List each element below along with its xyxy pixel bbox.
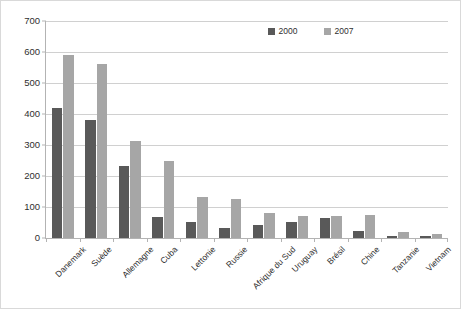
- bar-group: [247, 21, 281, 238]
- plot-area: 0100200300400500600700: [45, 21, 448, 239]
- y-tick-label: 200: [24, 171, 40, 181]
- x-axis-label: Chine: [359, 245, 381, 267]
- x-axis-label: Brésil: [326, 245, 347, 266]
- x-label-cell: Russie: [213, 241, 247, 307]
- x-label-cell: Afrique du Sud: [246, 241, 280, 307]
- y-tick-label: 400: [24, 109, 40, 119]
- bar-2007-vietnam[interactable]: [432, 234, 443, 238]
- x-axis-label: Suède: [90, 245, 113, 268]
- bar-group: [381, 21, 415, 238]
- bar-2000-danemark[interactable]: [52, 108, 63, 238]
- bar-2000-allemagne[interactable]: [119, 166, 130, 238]
- y-tick-label: 500: [24, 78, 40, 88]
- x-axis-label: Cuba: [158, 245, 178, 265]
- x-axis-label: Russie: [224, 245, 248, 269]
- x-label-cell: Uruguay: [280, 241, 314, 307]
- x-label-cell: Cuba: [146, 241, 180, 307]
- bar-2007-cuba[interactable]: [164, 161, 175, 239]
- x-axis-labels: DanemarkSuèdeAllemagneCubaLettonieRussie…: [45, 241, 448, 307]
- bar-group: [180, 21, 214, 238]
- bar-2000-brésil[interactable]: [320, 218, 331, 238]
- x-axis-label: Vietnam: [425, 245, 453, 273]
- bar-group: [147, 21, 181, 238]
- bar-2000-lettonie[interactable]: [186, 222, 197, 238]
- bar-2000-vietnam[interactable]: [420, 236, 431, 238]
- bar-2007-uruguay[interactable]: [298, 216, 309, 238]
- bar-2000-tanzanie[interactable]: [387, 236, 398, 238]
- bar-2007-brésil[interactable]: [331, 216, 342, 238]
- x-label-cell: Danemark: [45, 241, 79, 307]
- x-label-cell: Suède: [79, 241, 113, 307]
- y-tick-label: 600: [24, 47, 40, 57]
- x-label-cell: Brésil: [314, 241, 348, 307]
- bar-2007-allemagne[interactable]: [130, 141, 141, 238]
- bar-2007-chine[interactable]: [365, 215, 376, 238]
- bar-2007-danemark[interactable]: [63, 55, 74, 238]
- bar-2007-suède[interactable]: [97, 64, 108, 238]
- bar-2000-afrique-du-sud[interactable]: [253, 225, 264, 238]
- y-tick-label: 0: [35, 233, 40, 243]
- bar-group: [80, 21, 114, 238]
- bar-group: [314, 21, 348, 238]
- x-label-cell: Tanzanie: [381, 241, 415, 307]
- bars-layer: [46, 21, 448, 238]
- bar-2000-chine[interactable]: [353, 231, 364, 238]
- bar-2007-afrique-du-sud[interactable]: [264, 213, 275, 238]
- bar-group: [214, 21, 248, 238]
- bar-2007-russie[interactable]: [231, 199, 242, 238]
- bar-2000-cuba[interactable]: [152, 217, 163, 238]
- bar-group: [46, 21, 80, 238]
- x-label-cell: Lettonie: [179, 241, 213, 307]
- bar-group: [281, 21, 315, 238]
- bar-2007-tanzanie[interactable]: [398, 232, 409, 238]
- bar-2007-lettonie[interactable]: [197, 197, 208, 238]
- bar-group: [348, 21, 382, 238]
- y-tick-label: 100: [24, 202, 40, 212]
- x-label-cell: Chine: [347, 241, 381, 307]
- x-label-cell: Vietnam: [414, 241, 448, 307]
- bar-group: [113, 21, 147, 238]
- bar-2000-suède[interactable]: [85, 120, 96, 238]
- y-tick-label: 300: [24, 140, 40, 150]
- plot-frame: 0100200300400500600700: [45, 21, 448, 239]
- y-tick-label: 700: [24, 16, 40, 26]
- bar-group: [415, 21, 449, 238]
- bar-2000-uruguay[interactable]: [286, 222, 297, 238]
- bar-2000-russie[interactable]: [219, 228, 230, 238]
- x-label-cell: Allemagne: [112, 241, 146, 307]
- bar-chart: 20002007 0100200300400500600700 Danemark…: [0, 0, 461, 309]
